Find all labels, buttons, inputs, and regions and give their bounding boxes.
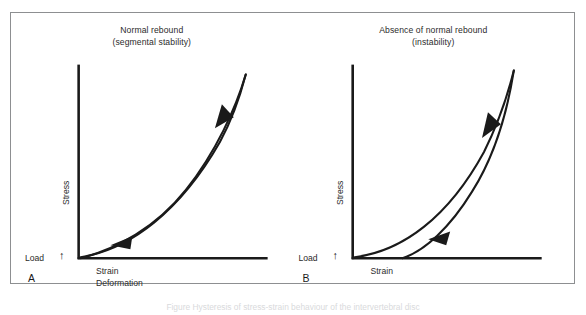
panel-b-loading-curve	[354, 71, 513, 258]
figure-frame: Normal rebound (segmental stability) Str…	[10, 12, 575, 284]
panel-a-x-axis-label-line1: Strain	[96, 266, 118, 276]
panel-a-y-axis-label: Stress	[61, 181, 71, 205]
panel-a: Normal rebound (segmental stability) Str…	[11, 13, 293, 283]
figure-caption: Figure Hysteresis of stress-strain behav…	[0, 302, 586, 312]
up-arrow-icon: ↑	[59, 251, 65, 260]
panel-a-x-axis-label-line2: Deformation	[96, 278, 143, 290]
panel-b-x-axis-label: Strain	[371, 266, 393, 278]
curve-arrow-up-icon	[215, 104, 234, 128]
panel-a-letter: A	[28, 272, 35, 284]
panel-a-unloading-curve	[81, 75, 246, 259]
panel-a-x-axis-label: Strain Deformation	[96, 266, 143, 289]
panel-a-loading-curve	[81, 75, 246, 258]
panel-b: Absence of normal rebound (instability) …	[293, 13, 575, 283]
panel-a-plot	[11, 13, 293, 283]
panel-b-load-label: Load	[299, 253, 318, 263]
panel-a-load-label: Load	[25, 253, 44, 263]
panel-b-plot	[293, 13, 575, 283]
up-arrow-icon: ↑	[333, 251, 339, 260]
panel-b-y-axis-label: Stress	[335, 181, 345, 205]
panel-b-letter: B	[303, 272, 310, 284]
panel-b-x-axis-label-line1: Strain	[371, 266, 393, 276]
